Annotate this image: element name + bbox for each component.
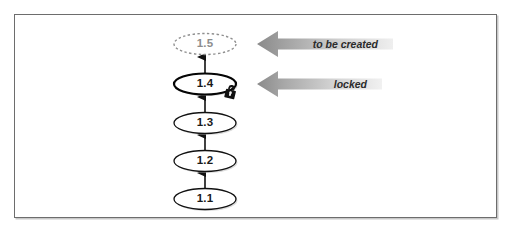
node-1.3[interactable] [174, 113, 238, 136]
figure-canvas: 1.1 1.2 1.3 1.4 1.5 to be created locked [0, 0, 518, 232]
node-1.5[interactable] [174, 34, 236, 55]
node-1.1[interactable] [174, 189, 238, 212]
revision-chain-diagram [0, 0, 518, 232]
callout-label-locked: locked [300, 78, 367, 90]
callout-label-to-be-created: to be created [300, 38, 378, 50]
node-1.2[interactable] [174, 151, 238, 174]
